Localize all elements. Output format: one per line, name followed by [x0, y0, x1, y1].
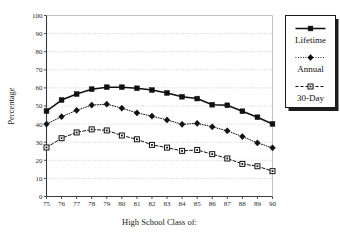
marker-annual-13: [239, 133, 245, 139]
x-axis-ticks: 75767778798081828384858687888990: [43, 197, 277, 209]
marker-center-30-day-3: [91, 128, 93, 130]
y-tick-label-10: 10: [36, 175, 44, 183]
marker-legend0-legend: [308, 26, 313, 31]
marker-lifetime-0: [44, 109, 49, 114]
x-tick-label-86: 86: [209, 200, 217, 208]
marker-lifetime-12: [225, 103, 230, 108]
marker-center-30-day-1: [61, 137, 63, 139]
marker-center-30-day-0: [46, 147, 48, 149]
marker-annual-4: [104, 101, 110, 107]
x-tick-label-76: 76: [58, 200, 66, 208]
marker-lifetime-7: [150, 88, 155, 93]
y-tick-label-20: 20: [36, 157, 44, 165]
marker-annual-2: [74, 107, 80, 113]
marker-center-30-day-13: [241, 163, 243, 165]
legend-label-0: Lifetime: [295, 35, 326, 45]
x-tick-label-88: 88: [239, 200, 247, 208]
legend-label-1: Annual: [297, 64, 324, 74]
y-tick-label-90: 90: [36, 30, 44, 38]
gridlines: [47, 34, 273, 179]
series-line-lifetime: [47, 87, 273, 124]
x-tick-label-82: 82: [148, 200, 156, 208]
x-tick-label-77: 77: [73, 200, 81, 208]
marker-lifetime-3: [89, 87, 94, 92]
line-chart: 0102030405060708090100757677787980818283…: [0, 0, 340, 233]
marker-lifetime-9: [180, 94, 185, 99]
marker-lifetime-1: [59, 98, 64, 103]
series-annual: [44, 101, 276, 151]
x-tick-label-87: 87: [224, 200, 232, 208]
x-tick-label-78: 78: [88, 200, 96, 208]
marker-lifetime-2: [74, 92, 79, 97]
y-tick-label-100: 100: [32, 12, 43, 20]
marker-center-30-day-11: [211, 153, 213, 155]
marker-center-30-day-15: [272, 170, 274, 172]
y-tick-label-70: 70: [36, 66, 44, 74]
marker-annual-9: [179, 121, 185, 127]
marker-lifetime-10: [195, 96, 200, 101]
marker-center-30-day-4: [106, 130, 108, 132]
legend-label-2: 30-Day: [297, 93, 324, 103]
marker-annual-14: [255, 140, 261, 146]
x-tick-label-83: 83: [164, 200, 172, 208]
x-tick-label-89: 89: [254, 200, 262, 208]
y-axis-title: Percentage: [6, 87, 16, 125]
legend-item-lifetime[interactable]: Lifetime: [295, 26, 326, 45]
x-tick-label-79: 79: [103, 200, 111, 208]
marker-lifetime-8: [165, 91, 170, 96]
marker-annual-1: [59, 114, 65, 120]
marker-center-30-day-10: [196, 149, 198, 151]
chart-container: 0102030405060708090100757677787980818283…: [0, 0, 340, 233]
y-tick-label-60: 60: [36, 84, 44, 92]
marker-annual-0: [44, 121, 50, 127]
marker-center-30-day-6: [136, 138, 138, 140]
marker-lifetime-15: [270, 122, 275, 127]
marker-center-30-day-2: [76, 132, 78, 134]
marker-lifetime-4: [104, 85, 109, 90]
series-line-annual: [47, 104, 273, 148]
marker-lifetime-14: [255, 115, 260, 120]
y-tick-label-30: 30: [36, 139, 44, 147]
marker-lifetime-6: [135, 86, 140, 91]
x-tick-label-80: 80: [118, 200, 126, 208]
x-tick-label-81: 81: [133, 200, 141, 208]
marker-center-legend2-legend: [310, 86, 312, 88]
marker-annual-12: [224, 128, 230, 134]
marker-annual-10: [194, 120, 200, 126]
y-tick-label-80: 80: [36, 48, 44, 56]
marker-lifetime-11: [210, 102, 215, 107]
marker-center-30-day-14: [257, 165, 259, 167]
marker-center-30-day-8: [166, 147, 168, 149]
series-30-day: [44, 127, 275, 174]
x-tick-label-84: 84: [179, 200, 187, 208]
marker-annual-11: [209, 124, 215, 130]
marker-annual-15: [270, 145, 276, 151]
x-axis-title: High School Class of:: [122, 217, 197, 227]
marker-center-30-day-9: [181, 150, 183, 152]
y-tick-label-40: 40: [36, 121, 44, 129]
marker-center-30-day-12: [226, 158, 228, 160]
marker-lifetime-13: [240, 109, 245, 114]
x-tick-label-90: 90: [269, 200, 277, 208]
marker-annual-7: [149, 113, 155, 119]
marker-annual-8: [164, 117, 170, 123]
x-tick-label-85: 85: [194, 200, 202, 208]
legend: LifetimeAnnual30-Day: [286, 16, 339, 112]
marker-annual-6: [134, 110, 140, 116]
marker-lifetime-5: [119, 85, 124, 90]
y-tick-label-50: 50: [36, 102, 44, 110]
marker-center-30-day-5: [121, 135, 123, 137]
series-lifetime: [44, 85, 275, 127]
marker-annual-3: [89, 102, 95, 108]
y-axis-ticks: 0102030405060708090100: [32, 12, 47, 201]
marker-center-30-day-7: [151, 144, 153, 146]
x-tick-label-75: 75: [43, 200, 51, 208]
